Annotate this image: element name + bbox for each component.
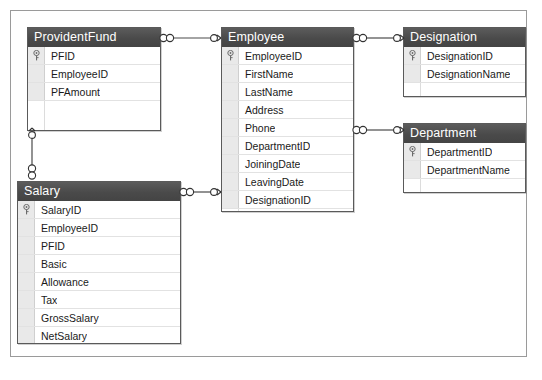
field-name: SalaryID — [35, 201, 81, 219]
field-name: Address — [239, 101, 284, 119]
field-key-cell — [18, 237, 35, 254]
field-key-cell — [222, 83, 239, 100]
field-name: PFID — [45, 47, 75, 65]
table-salary[interactable]: Salary SalaryID EmployeeID — [17, 181, 181, 344]
table-body-salary: SalaryID EmployeeID PFID Basic Allowance… — [18, 201, 180, 344]
field-name: DesignationID — [239, 191, 311, 209]
field-row[interactable]: DesignationID — [222, 191, 353, 209]
field-name: GrossSalary — [35, 309, 99, 327]
table-empty-space — [404, 83, 525, 97]
table-body-employee: EmployeeID FirstName LastName Address Ph… — [222, 47, 353, 212]
table-department[interactable]: Department DepartmentID DepartmentName — [403, 123, 526, 193]
field-name: LeavingDate — [239, 173, 304, 191]
field-name: DepartmentID — [421, 143, 492, 161]
relationship-employee-department[interactable] — [352, 123, 408, 137]
field-key-cell — [404, 65, 421, 82]
field-row[interactable]: Basic — [18, 255, 180, 273]
field-key-cell — [222, 137, 239, 154]
primary-key-icon — [408, 50, 417, 61]
table-title-providentfund: ProvidentFund — [28, 28, 160, 47]
field-key-cell — [222, 119, 239, 136]
field-name: JoiningDate — [239, 155, 300, 173]
table-body-designation: DesignationID DesignationName — [404, 47, 525, 97]
field-name: Tax — [35, 291, 57, 309]
table-title-department: Department — [404, 124, 525, 143]
table-empty-space — [222, 209, 353, 212]
relationship-providentfund-employee[interactable] — [159, 31, 225, 45]
table-title-salary: Salary — [18, 182, 180, 201]
primary-key-icon — [226, 50, 235, 61]
field-key-cell — [404, 143, 421, 160]
primary-key-icon — [408, 146, 417, 157]
field-key-cell — [28, 47, 45, 64]
field-row[interactable]: Address — [222, 101, 353, 119]
field-row[interactable]: LeavingDate — [222, 173, 353, 191]
primary-key-icon — [22, 204, 31, 215]
table-title-designation: Designation — [404, 28, 525, 47]
field-row[interactable]: JoiningDate — [222, 155, 353, 173]
field-name: Phone — [239, 119, 275, 137]
field-name: Basic — [35, 255, 67, 273]
field-row[interactable]: GrossSalary — [18, 309, 180, 327]
field-row[interactable]: EmployeeID — [222, 47, 353, 65]
field-name: DesignationName — [421, 65, 510, 83]
field-key-cell — [18, 201, 35, 218]
table-body-providentfund: PFID EmployeeID PFAmount — [28, 47, 160, 131]
table-body-department: DepartmentID DepartmentName — [404, 143, 525, 193]
field-row[interactable]: DesignationID — [404, 47, 525, 65]
field-key-cell — [404, 161, 421, 178]
field-name: NetSalary — [35, 327, 87, 345]
table-empty-space — [404, 179, 525, 193]
table-employee[interactable]: Employee EmployeeID FirstName — [221, 27, 354, 212]
field-name: EmployeeID — [35, 219, 98, 237]
field-name: Allowance — [35, 273, 89, 291]
field-name: PFID — [35, 237, 65, 255]
relationship-providentfund-salary[interactable] — [25, 129, 39, 183]
field-row[interactable]: PFAmount — [28, 83, 160, 101]
field-name: DepartmentID — [239, 137, 310, 155]
field-row[interactable]: EmployeeID — [18, 219, 180, 237]
field-key-cell — [222, 101, 239, 118]
field-row[interactable]: Tax — [18, 291, 180, 309]
field-row[interactable]: PFID — [28, 47, 160, 65]
field-key-cell — [18, 219, 35, 236]
field-row[interactable]: Allowance — [18, 273, 180, 291]
relationship-employee-designation[interactable] — [352, 31, 408, 45]
field-row[interactable]: EmployeeID — [28, 65, 160, 83]
primary-key-icon — [32, 50, 41, 61]
field-name: PFAmount — [45, 83, 100, 101]
table-empty-space — [28, 101, 160, 131]
field-name: DesignationID — [421, 47, 493, 65]
table-title-employee: Employee — [222, 28, 353, 47]
field-name: DepartmentName — [421, 161, 510, 179]
field-name: LastName — [239, 83, 293, 101]
field-name: FirstName — [239, 65, 293, 83]
field-name: EmployeeID — [45, 65, 108, 83]
field-key-cell — [222, 65, 239, 82]
field-row[interactable]: DepartmentID — [222, 137, 353, 155]
field-key-cell — [18, 273, 35, 290]
field-row[interactable]: FirstName — [222, 65, 353, 83]
field-row[interactable]: SalaryID — [18, 201, 180, 219]
field-row[interactable]: DepartmentName — [404, 161, 525, 179]
field-row[interactable]: LastName — [222, 83, 353, 101]
field-key-cell — [18, 255, 35, 272]
field-key-cell — [18, 327, 35, 344]
field-key-cell — [28, 83, 45, 100]
table-providentfund[interactable]: ProvidentFund PFID EmployeeID — [27, 27, 161, 131]
field-row[interactable]: PFID — [18, 237, 180, 255]
field-row[interactable]: Phone — [222, 119, 353, 137]
field-key-cell — [18, 291, 35, 308]
diagram-canvas[interactable]: ProvidentFund PFID EmployeeID — [10, 10, 527, 357]
table-designation[interactable]: Designation DesignationID DesignationNam… — [403, 27, 526, 97]
relationship-salary-employee[interactable] — [179, 185, 225, 199]
field-row[interactable]: DepartmentID — [404, 143, 525, 161]
field-key-cell — [18, 309, 35, 326]
field-row[interactable]: DesignationName — [404, 65, 525, 83]
field-key-cell — [222, 155, 239, 172]
field-key-cell — [28, 65, 45, 82]
field-key-cell — [222, 47, 239, 64]
field-name: EmployeeID — [239, 47, 302, 65]
field-key-cell — [404, 47, 421, 64]
field-row[interactable]: NetSalary — [18, 327, 180, 344]
